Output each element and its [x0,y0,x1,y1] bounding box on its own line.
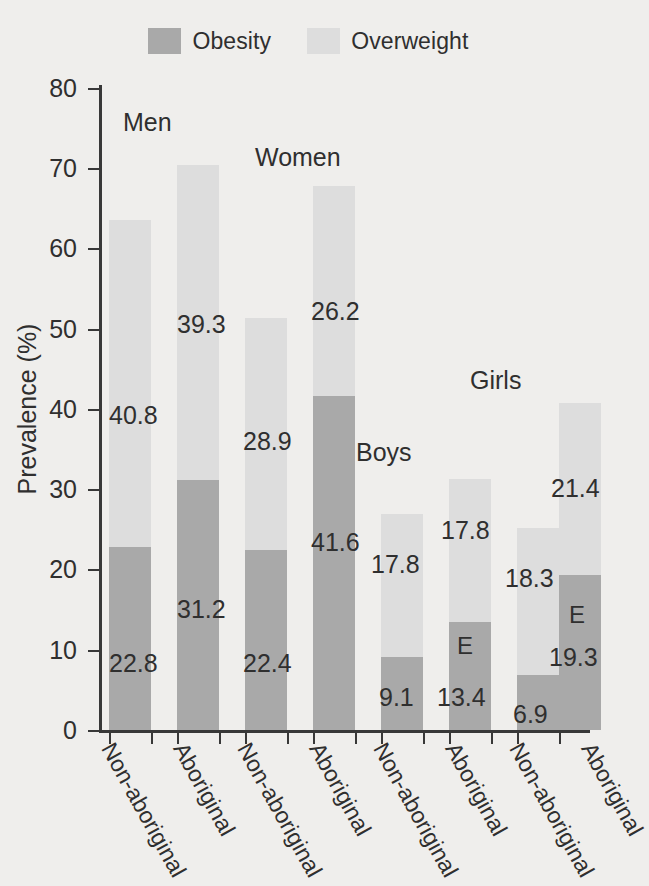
y-tick-30 [88,489,99,491]
plot-area: Prevalence (%) 80 70 60 50 40 30 20 10 0 [99,88,587,730]
bar-segment-overweight [449,479,491,622]
bar-value-obesity: 9.1 [379,685,414,710]
y-tick-70 [88,168,99,170]
bar-value-obesity: 13.4 [437,685,486,710]
y-tick-label-30: 30 [49,475,77,504]
bar-women-aboriginal[interactable] [313,186,355,730]
y-axis-line [99,85,102,733]
legend-label-obesity: Obesity [192,30,271,53]
y-tick-0 [88,730,99,732]
legend-swatch-overweight [307,28,340,54]
x-label-1: Aboriginal [167,738,240,841]
bar-value-obesity: 22.8 [109,651,158,676]
y-tick-label-80: 80 [49,74,77,103]
bar-men-aboriginal[interactable] [177,165,219,730]
bar-segment-obesity [245,550,287,730]
y-tick-label-70: 70 [49,154,77,183]
bar-value-obesity: 6.9 [513,702,548,727]
x-label-5: Aboriginal [439,738,512,841]
bar-marker-estimate: E [569,603,585,627]
bar-marker-estimate: E [457,634,473,658]
y-tick-20 [88,569,99,571]
chart-legend: Obesity Overweight [0,28,617,54]
bar-value-overweight: 26.2 [311,299,360,324]
y-tick-60 [88,248,99,250]
bar-value-overweight: 17.8 [441,518,490,543]
y-tick-label-10: 10 [49,636,77,665]
y-tick-10 [88,650,99,652]
y-tick-50 [88,329,99,331]
bar-girls-aboriginal[interactable] [559,403,601,730]
bar-segment-overweight [381,514,423,657]
bar-value-obesity: 31.2 [177,597,226,622]
y-tick-label-60: 60 [49,234,77,263]
y-tick-40 [88,409,99,411]
bar-value-obesity: 19.3 [549,645,598,670]
y-tick-label-40: 40 [49,395,77,424]
legend-swatch-obesity [148,28,181,54]
y-tick-label-20: 20 [49,555,77,584]
group-title-women: Women [255,143,341,172]
y-tick-label-0: 0 [63,716,77,745]
bar-value-overweight: 18.3 [505,566,554,591]
x-label-7: Aboriginal [575,738,648,841]
bar-value-obesity: 22.4 [243,651,292,676]
bar-value-overweight: 39.3 [177,312,226,337]
bar-segment-overweight [313,186,355,396]
bar-segment-overweight [109,220,151,547]
bar-value-overweight: 17.8 [371,552,420,577]
group-title-girls: Girls [470,366,521,395]
bar-value-obesity: 41.6 [311,530,360,555]
bar-segment-obesity [109,547,151,730]
bar-segment-obesity [313,396,355,730]
x-label-3: Aboriginal [303,738,376,841]
x-axis-labels: Non-aboriginal Aboriginal Non-aboriginal… [99,738,617,886]
group-title-men: Men [123,108,172,137]
bar-value-overweight: 28.9 [243,429,292,454]
y-tick-80 [88,88,99,90]
bar-value-overweight: 40.8 [109,403,158,428]
y-axis-title: Prevalence (%) [13,324,42,495]
bar-value-overweight: 21.4 [551,476,600,501]
legend-item-overweight: Overweight [307,28,468,54]
group-title-boys: Boys [356,438,412,467]
legend-label-overweight: Overweight [351,30,468,53]
y-tick-label-50: 50 [49,315,77,344]
legend-item-obesity: Obesity [148,28,271,54]
